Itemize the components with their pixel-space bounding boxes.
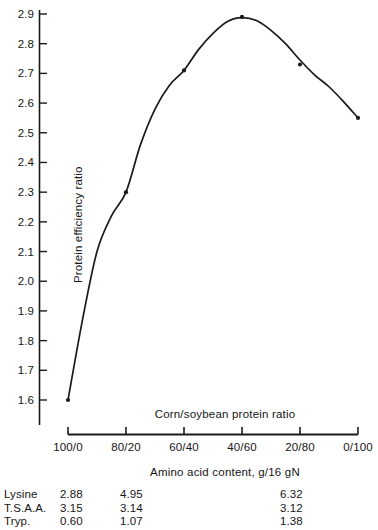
data-point: [124, 190, 128, 194]
amino-acid-value: 1.38: [280, 515, 374, 529]
amino-acid-value: 6.32: [280, 488, 374, 502]
table-row: Lysine2.884.956.32: [4, 488, 374, 502]
x-axis-tick-label: 100/0: [53, 441, 82, 453]
x-axis-tick-label: 60/40: [169, 441, 198, 453]
x-axis-tick-label: 40/60: [227, 441, 256, 453]
y-axis-tick-label: 2.7: [2, 67, 34, 79]
amino-acid-value: 3.14: [120, 502, 280, 516]
amino-acid-value: 0.60: [60, 515, 120, 529]
y-axis-tick-label: 2.4: [2, 156, 34, 168]
y-axis-tick-label: 1.9: [2, 305, 34, 317]
y-axis-title: Protein efficiency ratio: [72, 166, 84, 283]
y-axis-tick-label: 1.6: [2, 394, 34, 406]
x-axis-tick-label: 80/20: [111, 441, 140, 453]
table-row: Tryp.0.601.071.38: [4, 515, 374, 529]
y-axis-tick-label: 2.9: [2, 8, 34, 20]
y-axis-tick-label: 1.8: [2, 335, 34, 347]
x-axis-tick-label: 0/100: [343, 441, 372, 453]
amino-acid-table-caption: Amino acid content, g/16 gN: [150, 466, 300, 478]
amino-acid-value: 1.07: [120, 515, 280, 529]
x-axis-ticks: [68, 427, 358, 435]
data-point: [66, 398, 70, 402]
amino-acid-name: Lysine: [4, 488, 60, 502]
y-axis-tick-label: 2.6: [2, 97, 34, 109]
data-point: [298, 62, 302, 66]
amino-acid-name: Tryp.: [4, 515, 60, 529]
amino-acid-value: 2.88: [60, 488, 120, 502]
x-axis-title: Corn/soybean protein ratio: [155, 408, 296, 420]
y-axis-tick-label: 2.0: [2, 275, 34, 287]
data-point-markers: [66, 15, 360, 402]
x-axis-tick-label: 20/80: [285, 441, 314, 453]
amino-acid-value: 3.15: [60, 502, 120, 516]
y-axis-tick-label: 2.5: [2, 127, 34, 139]
y-axis-ticks: [40, 14, 48, 400]
data-point: [182, 68, 186, 72]
data-point: [356, 116, 360, 120]
y-axis-tick-label: 2.2: [2, 216, 34, 228]
data-curve: [68, 18, 358, 400]
amino-acid-value: 3.12: [280, 502, 374, 516]
amino-acid-table: Lysine2.884.956.32T.S.A.A.3.153.143.12Tr…: [4, 488, 374, 529]
amino-acid-name: T.S.A.A.: [4, 502, 60, 516]
y-axis-tick-label: 2.8: [2, 38, 34, 50]
table-row: T.S.A.A.3.153.143.12: [4, 502, 374, 516]
data-point: [240, 15, 244, 19]
y-axis-tick-label: 2.1: [2, 246, 34, 258]
y-axis-tick-label: 1.7: [2, 364, 34, 376]
chart-figure: 2.92.82.72.62.52.42.32.22.12.01.91.81.71…: [0, 0, 378, 530]
amino-acid-value: 4.95: [120, 488, 280, 502]
y-axis-tick-label: 2.3: [2, 186, 34, 198]
